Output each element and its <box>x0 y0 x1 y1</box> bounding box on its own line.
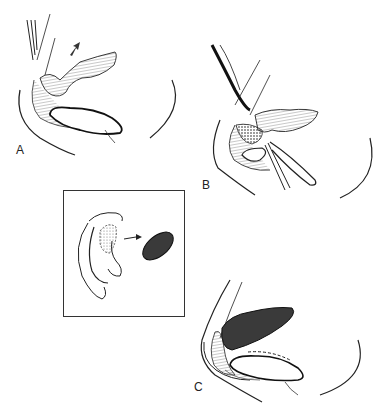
panel-c: C <box>190 270 384 415</box>
harvest-site <box>100 225 116 253</box>
panel-b-drawing <box>190 30 384 230</box>
panel-c-drawing <box>190 270 384 415</box>
panel-a: A <box>0 0 190 160</box>
ear-drawing <box>64 191 184 316</box>
inset-ear-box <box>63 190 185 317</box>
panel-b: B <box>190 30 384 230</box>
panel-label-c: C <box>194 380 203 394</box>
panel-label-a: A <box>16 143 24 157</box>
cartilage-graft <box>222 308 294 351</box>
cartilage-graft <box>138 227 178 265</box>
direction-arrow-icon <box>70 42 80 56</box>
panel-a-drawing <box>0 0 190 160</box>
arrow-right-icon <box>136 234 142 240</box>
panel-label-b: B <box>202 178 210 192</box>
